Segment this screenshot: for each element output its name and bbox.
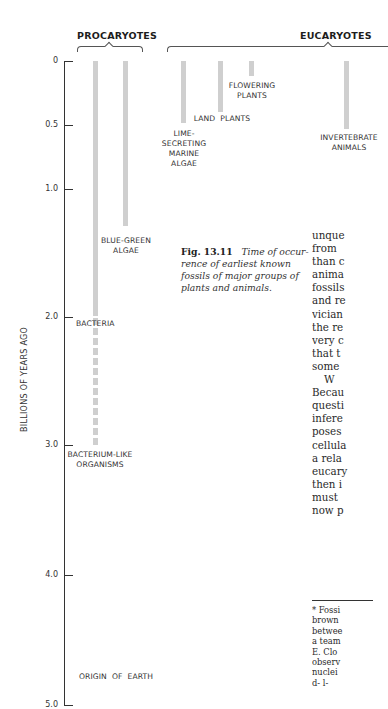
footnote: * Fossi brown betwee a team E. Clo obser… — [312, 605, 374, 688]
body-line: now p — [312, 504, 374, 517]
caption-line-4: plants and animals. — [181, 282, 272, 293]
y-tick-4-0 — [64, 575, 73, 576]
y-tick-2-0 — [64, 317, 73, 318]
body-line: questi — [312, 399, 374, 412]
y-tick-label-1-0: 1.0 — [28, 184, 58, 193]
lime-secreting-algae-label: LIME- SECRETING MARINE ALGAE — [159, 129, 209, 169]
body-line: cellula — [312, 439, 374, 452]
procaryotes-heading: PROCARYOTES — [77, 30, 157, 41]
body-line: eucary — [312, 465, 374, 478]
eucaryotes-brace — [167, 46, 388, 52]
caption-line-2: rence of earliest known — [181, 258, 291, 269]
footnote-line: a team — [312, 636, 374, 646]
bacterium-like-organisms-label: BACTERIUM-LIKE ORGANISMS — [66, 450, 134, 470]
footnote-line: nuclei — [312, 667, 374, 677]
footnote-line: * Fossi — [312, 605, 374, 615]
figure-caption: Fig. 13.11 Time of occur- rence of earli… — [181, 246, 311, 294]
y-tick-1-0 — [64, 189, 73, 190]
flowering-plants-bar — [249, 61, 254, 76]
y-tick-label-0-5: 0.5 — [28, 120, 58, 129]
y-tick-label-4-0: 4.0 — [28, 570, 58, 579]
body-line: and re — [312, 294, 374, 307]
y-tick-3-0 — [64, 445, 73, 446]
body-line: unque — [312, 229, 374, 242]
body-line: poses — [312, 425, 374, 438]
bacteria-label: BACTERIA — [76, 319, 115, 329]
footnote-divider — [312, 600, 373, 601]
body-line: a rela — [312, 452, 374, 465]
footnote-line: betwee — [312, 626, 374, 636]
figure-number: Fig. 13.11 — [181, 246, 233, 257]
origin-of-earth-label: ORIGIN OF EARTH — [79, 672, 153, 682]
body-line: from — [312, 242, 374, 255]
body-line: infere — [312, 412, 374, 425]
y-axis-title: BILLIONS OF YEARS AGO — [20, 327, 29, 432]
body-line: W — [312, 373, 374, 386]
invertebrate-animals-bar — [344, 61, 349, 129]
land-plants-label: LAND PLANTS — [190, 114, 254, 124]
body-line: anima — [312, 268, 374, 281]
footnote-line: brown — [312, 615, 374, 625]
footnote-line: observ — [312, 657, 374, 667]
invertebrate-animals-label: INVERTEBRATE ANIMALS — [314, 133, 384, 153]
body-line: vician — [312, 308, 374, 321]
lime-secreting-algae-bar — [181, 61, 186, 123]
y-tick-label-3-0: 3.0 — [28, 440, 58, 449]
y-axis-line — [64, 61, 65, 705]
body-line: Becau — [312, 386, 374, 399]
bacteria-bar — [93, 61, 98, 316]
y-tick-label-2-0: 2.0 — [28, 312, 58, 321]
body-line: fossils — [312, 281, 374, 294]
body-line: some — [312, 360, 374, 373]
body-line: then i — [312, 478, 374, 491]
body-line: very c — [312, 334, 374, 347]
body-text-column: unque from than c anima fossils and re v… — [312, 229, 374, 517]
footnote-line: d- l- — [312, 678, 374, 688]
bacteria-dashed-extension — [93, 318, 98, 448]
body-line: than c — [312, 255, 374, 268]
y-tick-5-0 — [64, 705, 73, 706]
y-tick-0 — [64, 61, 73, 62]
body-line: must — [312, 491, 374, 504]
y-tick-label-0: 0 — [28, 56, 58, 65]
flowering-plants-label: FLOWERING PLANTS — [222, 81, 282, 101]
eucaryotes-heading: EUCARYOTES — [300, 30, 372, 41]
blue-green-algae-bar — [123, 61, 128, 226]
footnote-line: E. Clo — [312, 647, 374, 657]
y-tick-label-5-0: 5.0 — [28, 700, 58, 709]
caption-line-1: Time of occur- — [241, 246, 308, 257]
y-tick-0-5 — [64, 125, 73, 126]
blue-green-algae-label: BLUE-GREEN ALGAE — [98, 236, 154, 256]
body-line: that t — [312, 347, 374, 360]
body-line: the re — [312, 321, 374, 334]
caption-line-3: fossils of major groups of — [181, 270, 299, 281]
